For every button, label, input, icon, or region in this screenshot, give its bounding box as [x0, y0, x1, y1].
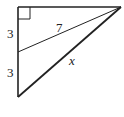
hypotenuse-label: x — [68, 53, 75, 68]
right-angle-icon — [18, 7, 30, 19]
lower-segment-label: 3 — [7, 65, 14, 80]
triangle-diagram: 3 3 7 x — [0, 0, 124, 117]
cevian — [18, 7, 121, 52]
upper-segment-label: 3 — [7, 26, 14, 41]
hypotenuse — [18, 7, 121, 97]
cevian-label: 7 — [56, 20, 63, 35]
